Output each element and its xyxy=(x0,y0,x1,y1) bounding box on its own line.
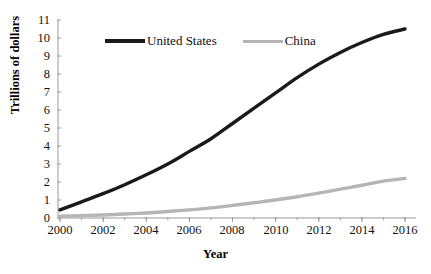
y-tick-label-9: 9 xyxy=(26,50,50,62)
series-line-united-states xyxy=(60,29,405,210)
x-tick-label-2016: 2016 xyxy=(381,223,429,238)
x-tick-label-2002: 2002 xyxy=(79,223,127,238)
y-tick-label-4: 4 xyxy=(26,140,50,152)
x-axis-title: Year xyxy=(0,247,431,262)
line-chart: Trillions of dollars Year 11 10 9 8 7 6 … xyxy=(0,0,431,274)
legend-label-china: China xyxy=(285,33,316,49)
y-axis-title: Trillions of dollars xyxy=(8,0,28,135)
x-tick-label-2006: 2006 xyxy=(165,223,213,238)
y-tick-label-8: 8 xyxy=(26,68,50,80)
legend-swatch-united-states xyxy=(105,39,145,43)
legend-item-china: China xyxy=(243,33,316,49)
y-tick-label-5: 5 xyxy=(26,122,50,134)
legend-label-united-states: United States xyxy=(147,33,217,49)
y-tick-label-2: 2 xyxy=(26,176,50,188)
x-tick-label-2010: 2010 xyxy=(252,223,300,238)
y-tick-label-6: 6 xyxy=(26,104,50,116)
x-tick-label-2012: 2012 xyxy=(295,223,343,238)
x-tick-label-2000: 2000 xyxy=(36,223,84,238)
y-tick-label-10: 10 xyxy=(26,32,50,44)
x-tick-label-2004: 2004 xyxy=(122,223,170,238)
x-tick-label-2008: 2008 xyxy=(208,223,256,238)
y-tick-label-11: 11 xyxy=(26,14,50,26)
chart-legend: United States China xyxy=(105,33,316,49)
y-tick-label-7: 7 xyxy=(26,86,50,98)
y-tick-label-1: 1 xyxy=(26,194,50,206)
series-line-china xyxy=(60,178,405,216)
legend-item-united-states: United States xyxy=(105,33,217,49)
y-tick-label-3: 3 xyxy=(26,158,50,170)
x-tick-label-2014: 2014 xyxy=(338,223,386,238)
legend-swatch-china xyxy=(243,40,283,43)
